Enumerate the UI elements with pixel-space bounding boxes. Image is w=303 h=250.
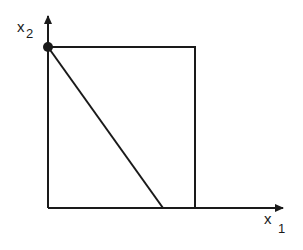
marked-point bbox=[43, 42, 53, 52]
diagonal-line bbox=[48, 47, 163, 208]
x2-label-base: x bbox=[17, 18, 25, 35]
x1-label-base: x bbox=[264, 210, 272, 227]
diagram-canvas: x 2 x 1 bbox=[0, 0, 303, 250]
x1-label-subscript: 1 bbox=[278, 221, 285, 236]
x2-label-subscript: 2 bbox=[26, 26, 33, 41]
